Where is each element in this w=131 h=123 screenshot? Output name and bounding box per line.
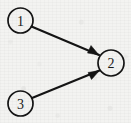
graph-node-2: 2 xyxy=(98,50,124,76)
edge-3-to-2-arrowhead-icon xyxy=(88,71,100,80)
graph-node-1: 1 xyxy=(8,8,33,33)
graph-diagram: 1 2 3 xyxy=(0,0,131,123)
edge-1-to-2 xyxy=(32,27,100,56)
edge-3-to-2 xyxy=(32,71,100,99)
graph-node-2-label: 2 xyxy=(108,56,115,71)
graph-node-3: 3 xyxy=(8,91,33,116)
graph-canvas: 1 2 3 xyxy=(0,0,131,123)
graph-node-1-label: 1 xyxy=(17,14,24,29)
graph-node-3-label: 3 xyxy=(17,97,24,112)
edge-1-to-2-arrowhead-icon xyxy=(88,46,100,56)
